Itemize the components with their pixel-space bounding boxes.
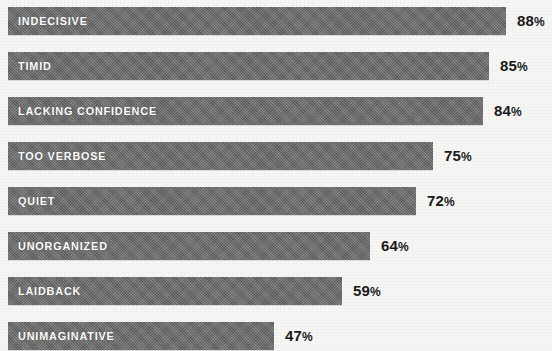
percent-sign: % xyxy=(398,240,409,254)
bar: UNORGANIZED xyxy=(8,232,370,260)
bar-value-label: 88% xyxy=(517,7,545,35)
bar-value-label: 47% xyxy=(285,322,313,350)
bar-row: TIMID85% xyxy=(0,52,552,80)
bar: UNIMAGINATIVE xyxy=(8,322,274,350)
percent-sign: % xyxy=(461,150,472,164)
bar: LAIDBACK xyxy=(8,277,342,305)
bar-value-number: 85 xyxy=(500,57,517,74)
bar-value-number: 84 xyxy=(494,102,511,119)
bar-value-label: 64% xyxy=(381,232,409,260)
bar-row: UNIMAGINATIVE47% xyxy=(0,322,552,350)
bar: LACKING CONFIDENCE xyxy=(8,97,483,125)
horizontal-bar-chart: INDECISIVE88%TIMID85%LACKING CONFIDENCE8… xyxy=(0,0,552,351)
percent-sign: % xyxy=(444,195,455,209)
bar-category-label: INDECISIVE xyxy=(18,7,88,35)
bar-row: LACKING CONFIDENCE84% xyxy=(0,97,552,125)
bar: TIMID xyxy=(8,52,489,80)
bar: TOO VERBOSE xyxy=(8,142,433,170)
bar-category-label: TIMID xyxy=(18,52,52,80)
percent-sign: % xyxy=(370,285,381,299)
bar-category-label: QUIET xyxy=(18,187,55,215)
percent-sign: % xyxy=(511,105,522,119)
bar-category-label: LAIDBACK xyxy=(18,277,81,305)
bar-row: UNORGANIZED64% xyxy=(0,232,552,260)
bar-value-number: 88 xyxy=(517,12,534,29)
bar: QUIET xyxy=(8,187,416,215)
percent-sign: % xyxy=(534,15,545,29)
bar-row: TOO VERBOSE75% xyxy=(0,142,552,170)
bar-category-label: TOO VERBOSE xyxy=(18,142,106,170)
bar-category-label: UNORGANIZED xyxy=(18,232,108,260)
bar-row: QUIET72% xyxy=(0,187,552,215)
bar: INDECISIVE xyxy=(8,7,506,35)
percent-sign: % xyxy=(517,60,528,74)
bar-category-label: UNIMAGINATIVE xyxy=(18,322,115,350)
bar-row: INDECISIVE88% xyxy=(0,7,552,35)
bar-value-number: 47 xyxy=(285,327,302,344)
bar-value-number: 59 xyxy=(353,282,370,299)
bar-value-label: 84% xyxy=(494,97,522,125)
bar-value-number: 75 xyxy=(444,147,461,164)
bar-value-label: 75% xyxy=(444,142,472,170)
bar-value-label: 59% xyxy=(353,277,381,305)
bar-category-label: LACKING CONFIDENCE xyxy=(18,97,157,125)
bar-value-number: 72 xyxy=(427,192,444,209)
bar-value-label: 85% xyxy=(500,52,528,80)
percent-sign: % xyxy=(302,330,313,344)
bar-value-number: 64 xyxy=(381,237,398,254)
bar-row: LAIDBACK59% xyxy=(0,277,552,305)
bar-value-label: 72% xyxy=(427,187,455,215)
